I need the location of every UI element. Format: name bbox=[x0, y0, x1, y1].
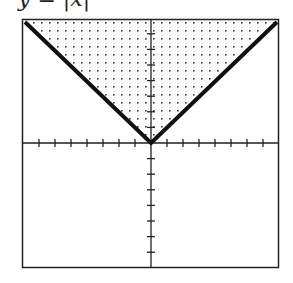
graph-plot bbox=[0, 0, 293, 283]
